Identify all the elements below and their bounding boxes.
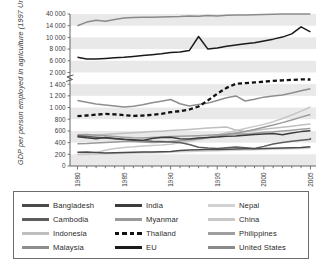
legend-item[interactable]: United States — [208, 240, 304, 254]
x-axis-tick-label: 1990 — [167, 172, 174, 187]
legend-item-label: Philippines — [239, 229, 277, 238]
y-axis-tick-label: 8 000 — [50, 45, 66, 52]
legend-swatch-icon — [115, 218, 142, 221]
legend-item-label: Thailand — [146, 229, 176, 238]
y-axis-tick-label: 1 400 — [50, 81, 66, 88]
chart-figure: GDP per person employed in agriculture (… — [0, 0, 325, 274]
legend-swatch-icon — [22, 246, 49, 249]
y-axis-tick-label: 6 000 — [50, 57, 66, 64]
x-axis-tick-label: 1995 — [214, 172, 221, 187]
legend-item-label: United States — [239, 243, 286, 252]
plot-band — [70, 154, 316, 166]
legend-item[interactable]: Nepal — [208, 198, 304, 212]
legend-item[interactable]: EU — [115, 240, 208, 254]
y-axis-title: GDP per person employed in agriculture (… — [6, 14, 36, 166]
legend-item-label: Malaysia — [53, 243, 84, 252]
legend-item[interactable]: Malaysia — [22, 240, 115, 254]
x-axis-tick-label: 2005 — [307, 172, 314, 187]
legend-swatch-icon — [208, 204, 235, 207]
legend-item-label: Myanmar — [146, 215, 178, 224]
legend-swatch-icon — [208, 246, 235, 249]
x-axis-tick-label: 2000 — [260, 172, 267, 187]
legend-item-label: Nepal — [239, 201, 259, 210]
x-axis-tick-label: 1985 — [121, 172, 128, 187]
legend-grid: BangladeshIndiaNepalCambodiaMyanmarChina… — [22, 198, 304, 254]
legend-item[interactable]: Myanmar — [115, 212, 208, 226]
plot-band — [70, 61, 316, 73]
y-axis-tick-label: 0 — [62, 162, 66, 169]
y-axis-tick-label: 1 200 — [50, 92, 66, 99]
legend-swatch-icon — [208, 232, 235, 235]
legend-item[interactable]: Cambodia — [22, 212, 115, 226]
y-axis-tick-label: 1 000 — [50, 104, 66, 111]
y-axis-tick-label: 800 — [55, 116, 66, 123]
legend-item-label: China — [239, 215, 259, 224]
y-axis-title-text: GDP per person employed in agriculture (… — [16, 15, 26, 165]
legend-swatch-icon — [115, 232, 142, 235]
x-axis-tick-label: 1980 — [74, 172, 81, 187]
legend-item-label: India — [146, 201, 163, 210]
legend-item[interactable]: Bangladesh — [22, 198, 115, 212]
plot-band — [70, 37, 316, 49]
legend-item[interactable]: Thailand — [115, 226, 208, 240]
legend-swatch-icon — [22, 218, 49, 221]
legend-swatch-icon — [208, 218, 235, 221]
y-axis-tick-label: 10 000 — [46, 34, 66, 41]
legend-swatch-icon — [115, 246, 142, 249]
line-chart-plot: 02004006008001 0001 2001 4002 0006 0008 … — [0, 0, 325, 190]
y-axis-tick-label: 2 000 — [50, 69, 66, 76]
legend-swatch-icon — [115, 204, 142, 207]
legend-item-label: EU — [146, 243, 157, 252]
y-axis-tick-label: 600 — [55, 127, 66, 134]
legend-item-label: Bangladesh — [53, 201, 94, 210]
plot-band — [70, 84, 316, 96]
chart-legend: BangladeshIndiaNepalCambodiaMyanmarChina… — [13, 191, 309, 259]
legend-swatch-icon — [22, 232, 49, 235]
y-axis-tick-label: 40 000 — [46, 10, 66, 17]
legend-item-label: Cambodia — [53, 215, 88, 224]
y-axis-tick-label: 14 000 — [46, 22, 66, 29]
legend-item[interactable]: China — [208, 212, 304, 226]
legend-item[interactable]: India — [115, 198, 208, 212]
y-axis-tick-label: 200 — [55, 151, 66, 158]
legend-item[interactable]: Indonesia — [22, 226, 115, 240]
legend-swatch-icon — [22, 204, 49, 207]
legend-item[interactable]: Philippines — [208, 226, 304, 240]
y-axis-tick-label: 400 — [55, 139, 66, 146]
legend-item-label: Indonesia — [53, 229, 87, 238]
